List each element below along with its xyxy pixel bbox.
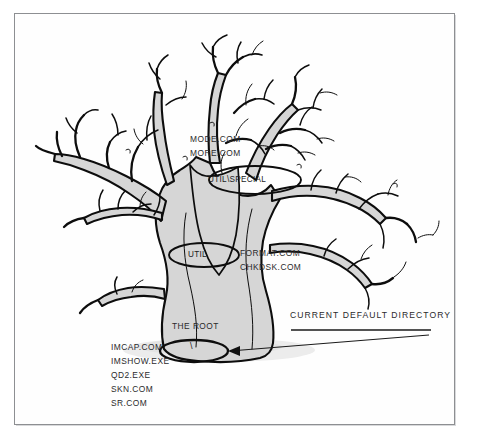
twig-l6	[107, 142, 110, 168]
twig-l8	[112, 114, 118, 135]
twig-l18	[64, 218, 84, 227]
list-item: QD2.EXE	[111, 368, 169, 382]
limb-left-low	[98, 287, 165, 306]
twig-r33	[394, 262, 406, 277]
twig-l11	[147, 116, 151, 140]
label-format-com: FORMAT.COM	[240, 248, 300, 258]
list-item: IMCAP.COM	[111, 340, 169, 354]
oval-label-util[interactable]: UTIL	[188, 250, 207, 259]
label-chkdsk-com: CHKDSK.COM	[240, 262, 301, 272]
twig-r12	[320, 92, 337, 95]
twig-l23	[80, 300, 98, 313]
list-item: SR.COM	[111, 396, 169, 410]
twig-l5	[66, 118, 77, 133]
twig-l20	[118, 191, 125, 209]
twig-r9	[295, 65, 309, 77]
list-item: SKN.COM	[111, 382, 169, 396]
twig-r34	[407, 224, 416, 242]
twig-l14	[157, 55, 168, 69]
twig-r29	[365, 288, 369, 309]
speck-3	[126, 149, 130, 153]
twig-r1	[213, 47, 218, 73]
speck-2	[297, 164, 301, 168]
twig-r36	[433, 221, 439, 235]
twig-r13	[280, 129, 305, 133]
tree-illustration: .bk { fill: #d6d6d6; stroke: #0d0d0d; st…	[14, 13, 455, 425]
figure-page: .bk { fill: #d6d6d6; stroke: #0d0d0d; st…	[0, 0, 479, 441]
twig-r21	[380, 224, 384, 248]
twig-l19	[99, 190, 103, 211]
twig-c1	[234, 99, 255, 113]
oval-label-root[interactable]: \	[190, 341, 193, 351]
twig-l9	[131, 147, 138, 181]
limb-left-mid	[84, 208, 162, 224]
speck-5	[393, 183, 397, 187]
label-more-com: MORE.COM	[190, 148, 241, 158]
limb-right-main	[272, 186, 386, 224]
twig-l3	[75, 115, 84, 157]
twig-r2	[213, 35, 227, 47]
twig-l2	[57, 132, 62, 156]
twig-r15	[300, 107, 312, 125]
twig-l13	[157, 69, 162, 93]
twig-r20	[386, 218, 407, 224]
twig-r28	[372, 278, 393, 284]
oval-label-util-special[interactable]: UTIL\SPECIAL	[208, 175, 266, 184]
label-the-root: THE ROOT	[172, 321, 219, 331]
twig-r14	[305, 130, 322, 143]
twig-l1	[36, 146, 55, 154]
speck-4	[183, 156, 187, 160]
twig-l4	[84, 110, 98, 115]
twig-r35	[418, 235, 433, 238]
twig-r31	[361, 245, 372, 259]
twig-r11	[313, 89, 322, 108]
twig-r8	[292, 77, 296, 104]
label-current-default-directory: CURRENT DEFAULT DIRECTORY	[290, 310, 451, 320]
label-mode-com: MODE.COM	[190, 134, 241, 144]
twig-r26	[345, 177, 361, 182]
twig-r7	[252, 41, 263, 55]
twig-c3	[264, 80, 273, 99]
list-item: IMSHOW.EXE	[111, 354, 169, 368]
limb-left-upper	[153, 92, 174, 185]
root-file-list: IMCAP.COM IMSHOW.EXE QD2.EXE SKN.COM SR.…	[111, 340, 169, 410]
twig-r4	[226, 57, 243, 75]
